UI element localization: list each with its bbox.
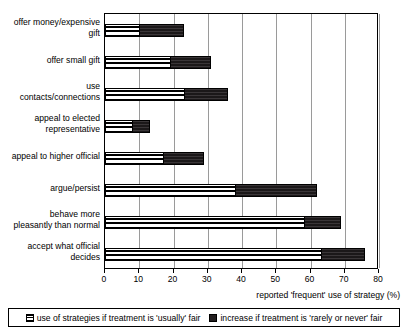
x-axis-tick-label: 60	[297, 274, 323, 284]
bar-segment-increase	[235, 184, 317, 197]
bar-segment-increase	[163, 152, 204, 165]
bar-segment-base	[105, 88, 184, 101]
gridline	[242, 14, 243, 268]
bar-segment-base	[105, 120, 132, 133]
bar-segment-base	[105, 248, 321, 261]
x-axis-tick-label: 30	[194, 274, 220, 284]
bar-segment-base	[105, 216, 304, 229]
x-axis-tick-label: 20	[160, 274, 186, 284]
x-axis-tick	[138, 269, 139, 273]
category-label: usecontacts/connections	[4, 81, 100, 103]
gridline	[174, 14, 175, 268]
category-label-line: behave more	[4, 209, 100, 220]
gridline	[379, 14, 380, 268]
category-label: accept what officialdecides	[4, 241, 100, 263]
bar-group	[105, 88, 228, 101]
category-label-line: appeal to elected	[4, 113, 100, 124]
x-axis-tick	[104, 269, 105, 273]
bar-group	[105, 120, 150, 133]
legend-label-increase: increase if treatment is 'rarely or neve…	[220, 313, 382, 323]
x-axis-tick-label: 0	[91, 274, 117, 284]
bar-group	[105, 216, 341, 229]
bar-group	[105, 152, 204, 165]
x-axis-title: reported 'frequent' use of strategy (%)	[256, 290, 400, 300]
category-label: offer small gift	[4, 55, 100, 66]
x-axis-tick	[241, 269, 242, 273]
chart-legend: use of strategies if treatment is 'usual…	[8, 308, 400, 327]
bar-segment-increase	[139, 24, 184, 37]
x-axis-tick	[378, 269, 379, 273]
x-axis-tick-label: 10	[125, 274, 151, 284]
category-label-line: offer money/expensive	[4, 17, 100, 28]
category-label-line: representative	[4, 124, 100, 135]
gridline	[276, 14, 277, 268]
gridline	[139, 14, 140, 268]
x-axis-tick	[173, 269, 174, 273]
legend-label-base: use of strategies if treatment is 'usual…	[37, 313, 201, 323]
x-axis-tick-label: 40	[228, 274, 254, 284]
bar-group	[105, 184, 317, 197]
increase-swatch-icon	[209, 314, 217, 322]
category-label-line: decides	[4, 252, 100, 263]
bar-segment-base	[105, 184, 235, 197]
bar-group	[105, 24, 184, 37]
category-label-line: pleasantly than normal	[4, 220, 100, 231]
x-axis-tick	[207, 269, 208, 273]
legend-item-increase: increase if treatment is 'rarely or neve…	[209, 313, 382, 323]
category-label-line: argue/persist	[4, 183, 100, 194]
x-axis-tick-label: 50	[262, 274, 288, 284]
category-label-line: offer small gift	[4, 55, 100, 66]
category-label: appeal to higher official	[4, 151, 100, 162]
category-label-line: contacts/connections	[4, 92, 100, 103]
category-label: argue/persist	[4, 183, 100, 194]
base-swatch-icon	[26, 314, 34, 322]
bar-group	[105, 248, 365, 261]
bar-segment-base	[105, 152, 163, 165]
bar-segment-increase	[304, 216, 342, 229]
bar-segment-increase	[132, 120, 149, 133]
x-axis-tick	[310, 269, 311, 273]
gridline	[345, 14, 346, 268]
bar-segment-increase	[170, 56, 211, 69]
category-label-line: use	[4, 81, 100, 92]
bar-segment-base	[105, 24, 139, 37]
x-axis-tick-label: 70	[331, 274, 357, 284]
category-label-line: accept what official	[4, 241, 100, 252]
category-label-line: gift	[4, 28, 100, 39]
bar-segment-increase	[321, 248, 366, 261]
bar-group	[105, 56, 211, 69]
category-label: offer money/expensivegift	[4, 17, 100, 39]
bar-segment-increase	[184, 88, 229, 101]
horizontal-stacked-bar-chart: offer money/expensivegiftoffer small gif…	[0, 0, 408, 333]
bar-segment-base	[105, 56, 170, 69]
plot-area	[104, 13, 378, 269]
gridline	[208, 14, 209, 268]
gridline	[311, 14, 312, 268]
x-axis-tick	[344, 269, 345, 273]
category-label: appeal to electedrepresentative	[4, 113, 100, 135]
category-label-line: appeal to higher official	[4, 151, 100, 162]
x-axis-tick-label: 80	[365, 274, 391, 284]
category-label: behave morepleasantly than normal	[4, 209, 100, 231]
x-axis-tick	[275, 269, 276, 273]
legend-item-base: use of strategies if treatment is 'usual…	[26, 313, 201, 323]
